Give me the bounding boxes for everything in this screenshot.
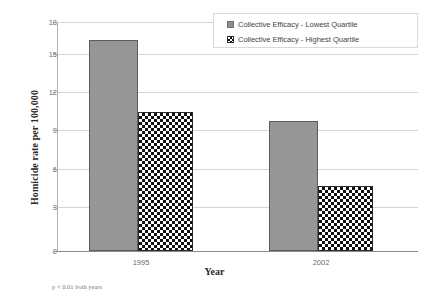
bar-2002-lowest-quartile (269, 121, 318, 251)
y-tick-mark-0 (53, 251, 56, 252)
x-axis-title: Year (0, 266, 429, 277)
y-axis-tick-group: 18 15 12 9 6 3 0 (0, 0, 57, 306)
chart-legend: Collective Efficacy - Lowest Quartile Co… (213, 13, 418, 48)
x-axis-line (57, 251, 418, 252)
y-tick-mark-18 (53, 22, 56, 23)
y-tick-mark-3 (53, 207, 56, 208)
legend-item-highest-quartile: Collective Efficacy - Highest Quartile (227, 33, 417, 46)
significance-footnote: p < 0.01 both years (52, 283, 102, 290)
bar-chart: Homicide rate per 100,000 18 15 12 9 6 3… (0, 0, 429, 306)
y-tick-mark-6 (53, 169, 56, 170)
solid-gray-square-icon (227, 21, 234, 28)
bar-2002-highest-quartile (318, 186, 373, 251)
y-tick-mark-12 (53, 92, 56, 93)
plot-area (57, 22, 418, 252)
y-tick-mark-15 (53, 54, 56, 55)
legend-label-highest-quartile: Collective Efficacy - Highest Quartile (238, 35, 359, 44)
bar-1995-highest-quartile (138, 112, 193, 251)
bar-1995-lowest-quartile (89, 40, 138, 251)
y-axis-line (57, 22, 58, 252)
legend-item-lowest-quartile: Collective Efficacy - Lowest Quartile (227, 18, 417, 31)
checkerboard-square-icon (227, 36, 234, 43)
y-tick-mark-9 (53, 130, 56, 131)
legend-label-lowest-quartile: Collective Efficacy - Lowest Quartile (238, 20, 358, 29)
